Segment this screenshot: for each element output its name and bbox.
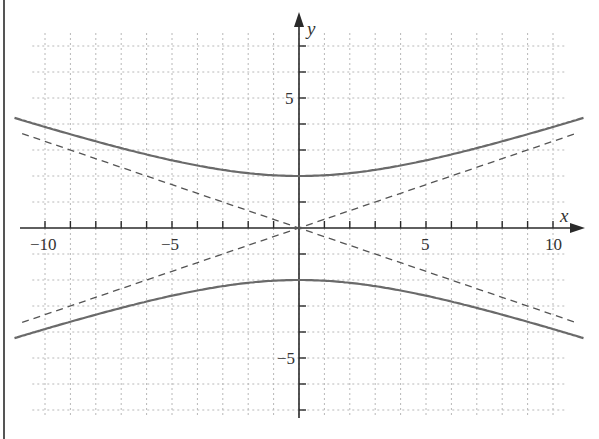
x-axis-arrow-icon	[570, 223, 585, 233]
x-tick-label-pos10: 10	[545, 235, 562, 254]
y-axis-label: y	[305, 18, 316, 39]
y-tick-label-pos5: 5	[285, 89, 294, 108]
x-tick-label-pos5: 5	[421, 235, 430, 254]
y-axis-arrow-icon	[294, 12, 304, 27]
x-tick-label-neg10: −10	[30, 235, 57, 254]
y-tick-label-neg5: −5	[277, 349, 295, 368]
hyperbola-plot: x y −10 −5 5 10 5 −5	[0, 0, 599, 439]
x-tick-label-neg5: −5	[161, 235, 179, 254]
x-axis-label: x	[559, 205, 569, 226]
